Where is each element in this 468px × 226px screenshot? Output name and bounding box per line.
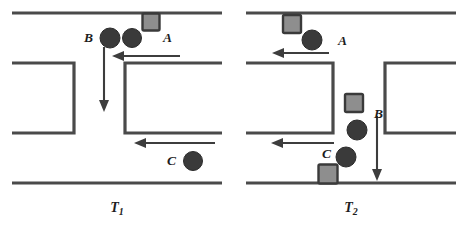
vehicle-C-circle (184, 152, 203, 171)
arrow-lower-westbound (134, 138, 215, 148)
panel-caption-t1: T1 (110, 200, 124, 217)
panel-t1-vehicle-labels: A B C (83, 30, 177, 168)
panel-caption-t2-sub: 2 (352, 206, 358, 217)
vehicle-C-square (319, 165, 338, 184)
arrow-southbound (372, 116, 382, 181)
panel-t1-vehicles (100, 14, 203, 171)
panel-t2: A B C T2 (234, 0, 468, 226)
vehicle-A-circle (123, 29, 142, 48)
arrow-upper-westbound (272, 48, 329, 58)
vehicle-label-B: B (83, 30, 93, 45)
vehicle-A-square (283, 15, 301, 33)
right-corner-block (125, 63, 222, 133)
panel-caption-t1-sub: 1 (119, 206, 124, 217)
vehicle-B-circle (100, 28, 120, 48)
vehicle-A-circle (302, 30, 322, 50)
arrow-southbound (99, 47, 109, 112)
vehicle-label-C: C (167, 153, 177, 168)
vehicle-C-circle (336, 147, 356, 167)
vehicle-A-square (143, 14, 160, 31)
arrow-upper-westbound (112, 51, 180, 61)
vehicle-B-circle (347, 120, 367, 140)
vehicle-B-square (345, 94, 363, 112)
panel-t2-arrows (271, 48, 382, 181)
vehicle-label-B: B (373, 106, 383, 121)
panel-caption-t2: T2 (344, 200, 358, 217)
left-corner-block (12, 63, 74, 133)
vehicle-label-A: A (337, 33, 347, 48)
panel-t2-canvas: A B C T2 (234, 0, 468, 226)
panel-t1: A B C T1 (0, 0, 234, 226)
vehicle-label-A: A (162, 30, 172, 45)
panel-t1-canvas: A B C T1 (0, 0, 234, 226)
left-corner-block (246, 63, 333, 133)
figure-root: A B C T1 (0, 0, 468, 226)
right-corner-block (385, 63, 456, 133)
vehicle-label-C: C (322, 146, 332, 161)
